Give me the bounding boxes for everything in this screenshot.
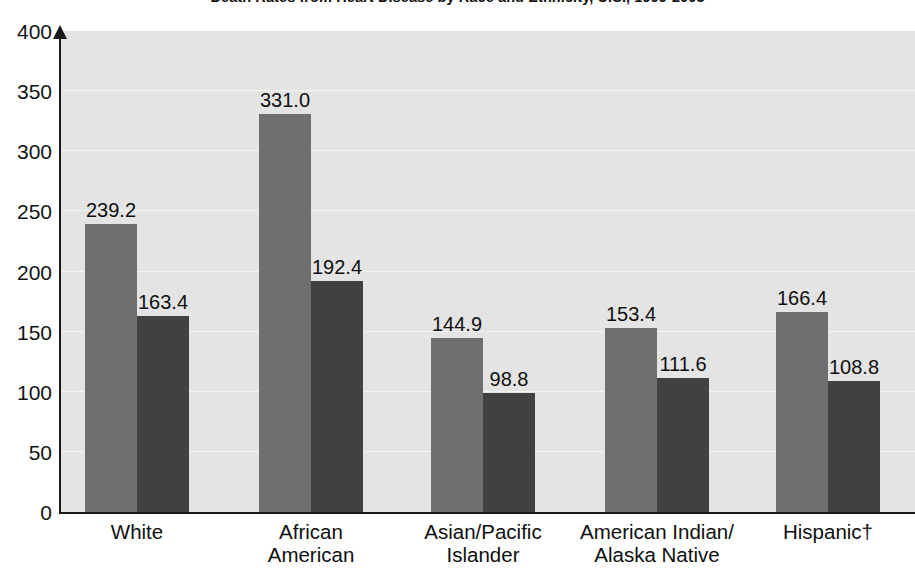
bar bbox=[85, 224, 137, 512]
y-axis-arrow-icon bbox=[53, 25, 67, 39]
y-axis-tick-label: 50 bbox=[0, 441, 52, 462]
y-axis-tick-label: 200 bbox=[0, 261, 52, 282]
bar bbox=[776, 312, 828, 512]
plot-area: 239.2163.4331.0192.4144.998.8153.4111.61… bbox=[60, 31, 915, 512]
y-axis-tick-label: 150 bbox=[0, 321, 52, 342]
chart-title-strip: Death Rates from Heart Disease by Race a… bbox=[0, 0, 915, 10]
bar bbox=[311, 281, 363, 512]
x-axis-category-label: Hispanic† bbox=[718, 521, 915, 544]
gridline bbox=[60, 271, 915, 272]
y-axis-tick-labels: 050100150200250300350400 bbox=[0, 0, 52, 585]
gridline bbox=[60, 210, 915, 211]
y-axis-tick-label: 100 bbox=[0, 381, 52, 402]
bar bbox=[828, 381, 880, 512]
y-axis-tick-label: 0 bbox=[0, 502, 52, 523]
bar bbox=[657, 378, 709, 512]
bar bbox=[483, 393, 535, 512]
gridline bbox=[60, 90, 915, 91]
bar-value-label: 166.4 bbox=[773, 288, 831, 308]
bar-value-label: 163.4 bbox=[134, 292, 192, 312]
bar-value-label: 331.0 bbox=[256, 90, 314, 110]
y-axis-tick-label: 300 bbox=[0, 141, 52, 162]
bar-value-label: 239.2 bbox=[82, 200, 140, 220]
y-axis-line bbox=[59, 36, 61, 514]
gridline bbox=[60, 150, 915, 151]
y-axis-tick-label: 400 bbox=[0, 21, 52, 42]
y-axis-tick-label: 250 bbox=[0, 201, 52, 222]
bar bbox=[137, 316, 189, 512]
y-axis-tick-label: 350 bbox=[0, 81, 52, 102]
x-axis-line bbox=[59, 512, 915, 514]
chart-figure: Death Rates from Heart Disease by Race a… bbox=[0, 0, 915, 585]
bar-value-label: 108.8 bbox=[825, 357, 883, 377]
bar-value-label: 192.4 bbox=[308, 257, 366, 277]
bar-value-label: 98.8 bbox=[480, 369, 538, 389]
bar bbox=[431, 338, 483, 512]
chart-title: Death Rates from Heart Disease by Race a… bbox=[210, 0, 704, 5]
bar bbox=[605, 328, 657, 512]
bar-value-label: 144.9 bbox=[428, 314, 486, 334]
bar bbox=[259, 114, 311, 512]
bar-value-label: 153.4 bbox=[602, 304, 660, 324]
bar-value-label: 111.6 bbox=[654, 354, 712, 374]
